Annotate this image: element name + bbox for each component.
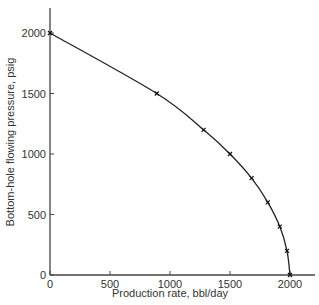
x-tick-label: 2000 <box>278 278 302 290</box>
y-ticks: 0500100015002000 <box>22 27 54 281</box>
x-marker-icon <box>202 128 206 132</box>
x-axis-label: Production rate, bbl/day <box>112 287 229 299</box>
y-tick-label: 1000 <box>22 148 46 160</box>
x-marker-icon <box>266 200 270 204</box>
x-marker-icon <box>250 176 254 180</box>
y-tick-label: 2000 <box>22 27 46 39</box>
y-tick-label: 500 <box>28 209 46 221</box>
x-marker-icon <box>155 92 159 96</box>
ipr-chart: 0500100015002000 0500100015002000 Produc… <box>0 0 319 305</box>
ipr-curve <box>50 33 290 275</box>
x-marker-icon <box>228 152 232 156</box>
y-axis-label: Bottom-hole flowing pressure, psig <box>4 58 16 227</box>
x-tick-label: 0 <box>47 278 53 290</box>
y-tick-label: 0 <box>40 269 46 281</box>
axes <box>50 8 315 275</box>
data-markers <box>48 31 292 277</box>
y-tick-label: 1500 <box>22 88 46 100</box>
